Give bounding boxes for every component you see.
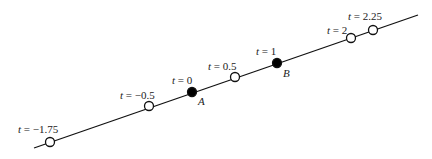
- open-point-marker: [46, 138, 55, 147]
- diagram-canvas: [0, 0, 432, 159]
- point-t-label: t = −1.75: [18, 124, 58, 135]
- parametric-line: [34, 15, 418, 148]
- point-t-label: t = 1: [256, 46, 276, 57]
- parametric-line-diagram: t = −1.75t = −0.5t = 0At = 0.5t = 1Bt = …: [0, 0, 432, 159]
- point-name-label: B: [283, 68, 290, 79]
- filled-point-marker: [273, 59, 282, 68]
- point-t-label: t = −0.5: [120, 90, 155, 101]
- open-point-marker: [347, 34, 356, 43]
- open-point-marker: [369, 26, 378, 35]
- open-point-marker: [145, 102, 154, 111]
- point-t-label: t = 0: [172, 75, 192, 86]
- open-point-marker: [231, 73, 240, 82]
- point-t-label: t = 2.25: [348, 11, 382, 22]
- filled-point-marker: [188, 88, 197, 97]
- point-t-label: t = 2: [327, 25, 347, 36]
- point-name-label: A: [198, 96, 205, 107]
- point-t-label: t = 0.5: [208, 61, 237, 72]
